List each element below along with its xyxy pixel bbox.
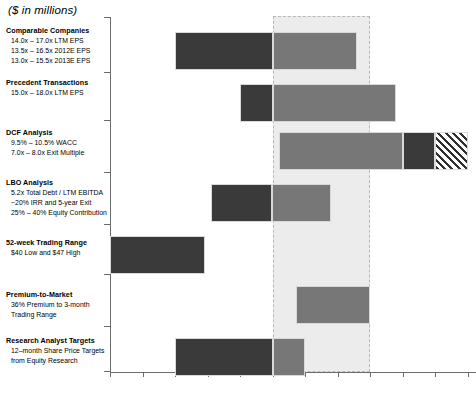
y-axis-line — [110, 17, 111, 372]
category-heading: 52-week Trading Range — [6, 238, 106, 248]
category-detail: 12–month Share Price Targets — [11, 346, 106, 356]
category-detail: Trading Range — [11, 310, 106, 320]
plot-area: $40.00$42.50$45.00$47.50$50.00$52.50$55.… — [104, 14, 476, 374]
range-bar-segment-dark — [403, 132, 436, 170]
y-axis-category-tick — [104, 326, 111, 327]
category-detail: 14.0x – 17.0x LTM EPS — [11, 36, 106, 46]
valuation-range-bar — [110, 236, 205, 274]
category-detail: 36% Premium to 3-month — [11, 300, 106, 310]
valuation-range-bar — [296, 286, 370, 324]
category-detail: ~20% IRR and 5-year Exit — [11, 198, 106, 208]
category-label-group: 52-week Trading Range$40 Low and $47 Hig… — [6, 238, 106, 258]
category-detail: 25% – 40% Equity Contribution — [11, 208, 106, 218]
x-axis-tick — [403, 373, 404, 377]
valuation-range-bar — [211, 184, 331, 222]
category-detail: 5.2x Total Debt / LTM EBITDA — [11, 188, 106, 198]
x-axis-tick — [143, 373, 144, 377]
range-bar-segment-dark — [175, 338, 273, 376]
category-heading: Research Analyst Targets — [6, 336, 106, 346]
x-axis-tick — [435, 373, 436, 377]
category-label-group: Precedent Transactions15.0x – 18.0x LTM … — [6, 78, 106, 98]
valuation-range-bar — [279, 132, 468, 170]
category-detail: 15.0x – 18.0x LTM EPS — [11, 88, 106, 98]
x-axis-tick — [305, 373, 306, 377]
range-bar-segment-mid — [273, 32, 358, 70]
category-label-group: LBO Analysis5.2x Total Debt / LTM EBITDA… — [6, 178, 106, 219]
x-axis-tick — [110, 373, 111, 377]
range-bar-segment-mid — [273, 338, 306, 376]
range-bar-segment-mid — [272, 184, 331, 222]
x-axis-tick — [468, 373, 469, 377]
range-bar-segment-mid — [296, 286, 370, 324]
valuation-range-bar — [240, 84, 396, 122]
category-detail: 7.0x – 8.0x Exit Multiple — [11, 148, 106, 158]
category-heading: LBO Analysis — [6, 178, 106, 188]
category-label-group: Comparable Companies14.0x – 17.0x LTM EP… — [6, 26, 106, 67]
range-bar-segment-dark — [110, 236, 205, 274]
valuation-range-bar — [175, 338, 305, 376]
category-label-group: Research Analyst Targets12–month Share P… — [6, 336, 106, 366]
y-axis-category-tick — [104, 224, 111, 225]
category-detail: 13.0x – 15.5x 2013E EPS — [11, 56, 106, 66]
range-bar-segment-hatch — [435, 132, 468, 170]
category-label-group: DCF Analysis9.5% – 10.5% WACC7.0x – 8.0x… — [6, 128, 106, 158]
y-axis-category-tick — [104, 120, 111, 121]
category-detail: 13.5x – 16.5x 2012E EPS — [11, 46, 106, 56]
category-label-group: Premium-to-Market36% Premium to 3-monthT… — [6, 290, 106, 320]
valuation-range-bar — [175, 32, 357, 70]
category-detail: $40 Low and $47 High — [11, 248, 106, 258]
category-heading: Precedent Transactions — [6, 78, 106, 88]
x-axis-tick — [338, 373, 339, 377]
category-heading: Premium-to-Market — [6, 290, 106, 300]
category-heading: Comparable Companies — [6, 26, 106, 36]
range-bar-segment-mid — [273, 84, 397, 122]
category-heading: DCF Analysis — [6, 128, 106, 138]
range-bar-segment-dark — [240, 84, 273, 122]
range-bar-segment-dark — [211, 184, 272, 222]
category-detail: from Equity Research — [11, 356, 106, 366]
y-axis-category-tick — [104, 274, 111, 275]
category-detail: 9.5% – 10.5% WACC — [11, 138, 106, 148]
football-field-chart: ($ in millions) Comparable Companies14.0… — [0, 0, 476, 397]
range-bar-segment-dark — [175, 32, 273, 70]
range-bar-segment-mid — [279, 132, 403, 170]
y-axis-category-tick — [104, 72, 111, 73]
category-label-column: Comparable Companies14.0x – 17.0x LTM EP… — [0, 0, 104, 397]
y-axis-end-tick — [104, 371, 111, 372]
x-axis-tick — [370, 373, 371, 377]
y-axis-category-tick — [104, 172, 111, 173]
y-axis-end-tick — [104, 17, 111, 18]
